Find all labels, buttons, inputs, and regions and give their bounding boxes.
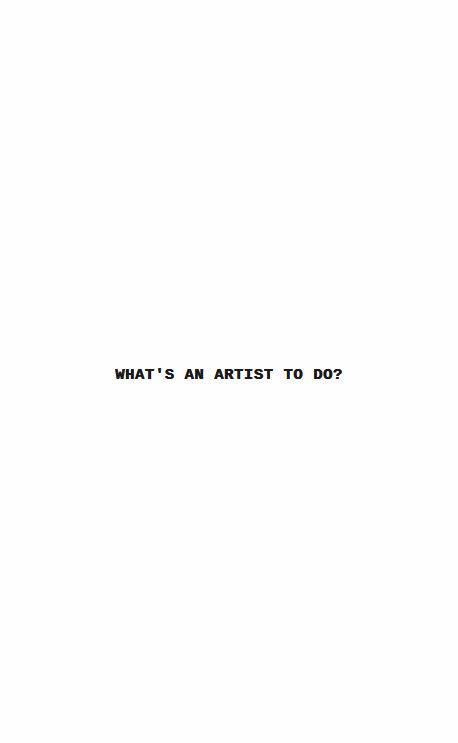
page-title: WHAT'S AN ARTIST TO DO? bbox=[0, 366, 458, 384]
page: WHAT'S AN ARTIST TO DO? bbox=[0, 0, 458, 743]
